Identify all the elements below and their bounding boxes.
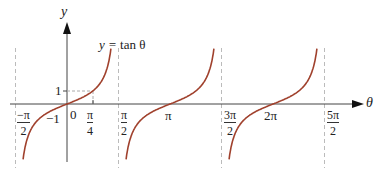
- x-tick-2pi: 2π: [264, 109, 277, 122]
- x-axis-arrow-icon: [352, 100, 364, 108]
- tangent-chart: y θ y = tan θ 1 −1 0 π 2π −π2 π4 π2 3π2 …: [0, 0, 381, 172]
- x-tick-neg-pi-over-2: −π2: [17, 109, 30, 137]
- y-tick-1: 1: [55, 84, 62, 97]
- denominator: 4: [87, 125, 93, 137]
- x-tick-pi: π: [165, 109, 172, 122]
- equation-label: y = tan θ: [99, 38, 145, 51]
- y-axis-label: y: [61, 5, 67, 19]
- numerator: 5π: [327, 109, 339, 121]
- x-tick-3pi-over-2: 3π2: [224, 109, 236, 137]
- equation-lhs: y =: [99, 37, 117, 52]
- x-tick-5pi-over-2: 5π2: [327, 109, 339, 137]
- numerator: 3π: [224, 109, 236, 121]
- x-tick-0: 0: [70, 108, 77, 121]
- denominator: 2: [121, 125, 127, 137]
- numerator: −π: [17, 109, 30, 121]
- denominator: 2: [20, 125, 26, 137]
- x-tick-pi-over-4: π4: [87, 109, 93, 137]
- y-axis-arrow-icon: [63, 22, 71, 34]
- x-axis-label: θ: [366, 96, 373, 110]
- x-tick-pi-over-2: π2: [121, 109, 127, 137]
- numerator: π: [121, 109, 127, 121]
- y-tick-minus1: −1: [46, 112, 60, 125]
- denominator: 2: [330, 125, 336, 137]
- denominator: 2: [227, 125, 233, 137]
- equation-rhs: tan θ: [120, 37, 145, 52]
- numerator: π: [87, 109, 93, 121]
